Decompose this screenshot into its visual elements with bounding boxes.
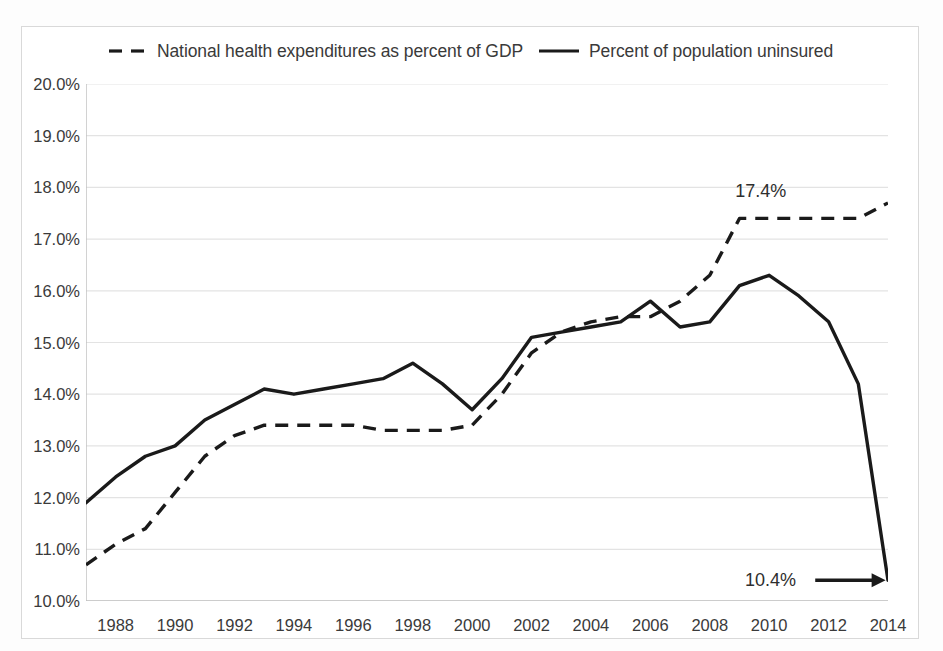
annotation-10-4: 10.4% bbox=[745, 571, 796, 589]
annotation-17-4: 17.4% bbox=[735, 182, 786, 200]
plot-area bbox=[86, 84, 888, 601]
plot-svg bbox=[86, 84, 888, 601]
gridlines bbox=[86, 84, 888, 601]
x-tick-label: 2014 bbox=[848, 617, 928, 634]
series-line-expenditures bbox=[86, 203, 888, 565]
annotation-right-arrow bbox=[815, 573, 885, 587]
series-line-uninsured bbox=[86, 275, 888, 580]
chart-figure: National health expenditures as percent … bbox=[0, 0, 943, 651]
